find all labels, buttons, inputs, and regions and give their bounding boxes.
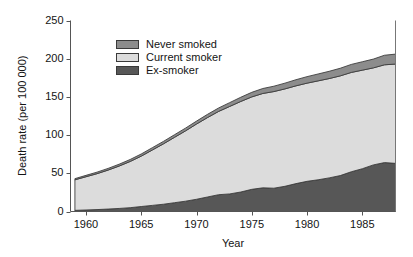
y-tick-label: 250	[45, 14, 63, 26]
legend-swatch-icon	[116, 53, 139, 62]
x-tick-label: 1970	[177, 218, 217, 230]
y-tick-label: 50	[51, 166, 63, 178]
chart-legend: Never smokedCurrent smokerEx-smoker	[116, 38, 222, 77]
legend-label: Never smoked	[146, 39, 217, 50]
chart-figure: 250200150100500 196019651970197519801985…	[0, 0, 413, 257]
area-series-group	[75, 54, 396, 211]
x-axis-label: Year	[173, 237, 293, 249]
y-tick-label: 200	[45, 52, 63, 64]
x-tick-label: 1975	[232, 218, 272, 230]
x-tick-label: 1980	[287, 218, 327, 230]
y-tick-label: 0	[57, 205, 63, 217]
x-tick-label: 1965	[121, 218, 161, 230]
legend-swatch-icon	[116, 66, 139, 75]
legend-label: Ex-smoker	[146, 65, 199, 76]
legend-swatch-icon	[116, 40, 139, 49]
y-tick-label: 100	[45, 128, 63, 140]
legend-item[interactable]: Never smoked	[116, 38, 222, 50]
y-axis-ticks	[67, 22, 71, 213]
x-tick-label: 1960	[66, 218, 106, 230]
y-tick-label: 150	[45, 90, 63, 102]
legend-item[interactable]: Current smoker	[116, 51, 222, 63]
legend-item[interactable]: Ex-smoker	[116, 64, 222, 76]
y-axis-label: Death rate (per 100 000)	[16, 56, 28, 176]
x-tick-label: 1985	[342, 218, 382, 230]
x-axis-ticks	[87, 212, 363, 216]
legend-label: Current smoker	[146, 52, 222, 63]
